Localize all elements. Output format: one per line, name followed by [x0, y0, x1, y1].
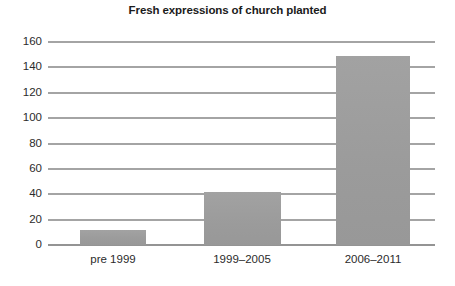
- bar: [204, 192, 281, 245]
- bar: [80, 230, 146, 245]
- y-axis-tick-label: 160: [0, 36, 42, 48]
- x-axis-tick-label: 1999–2005: [213, 253, 271, 267]
- gridline: [48, 42, 435, 43]
- y-axis: 020406080100120140160: [0, 42, 42, 245]
- y-axis-tick-label: 120: [0, 87, 42, 99]
- x-axis-tick-label: pre 1999: [90, 253, 135, 267]
- x-axis: pre 19991999–20052006–2011: [48, 253, 435, 277]
- y-axis-tick-label: 20: [0, 214, 42, 226]
- bar-chart-figure: Fresh expressions of church planted 0204…: [0, 0, 455, 286]
- y-axis-tick-label: 140: [0, 62, 42, 74]
- chart-title: Fresh expressions of church planted: [0, 4, 455, 16]
- y-axis-tick-label: 0: [0, 239, 42, 251]
- bar: [336, 56, 410, 245]
- y-axis-tick-label: 80: [0, 138, 42, 150]
- y-axis-tick-label: 100: [0, 112, 42, 124]
- y-axis-tick-label: 60: [0, 163, 42, 175]
- y-axis-tick-label: 40: [0, 189, 42, 201]
- plot-area: [48, 42, 435, 245]
- x-axis-tick-label: 2006–2011: [345, 253, 402, 267]
